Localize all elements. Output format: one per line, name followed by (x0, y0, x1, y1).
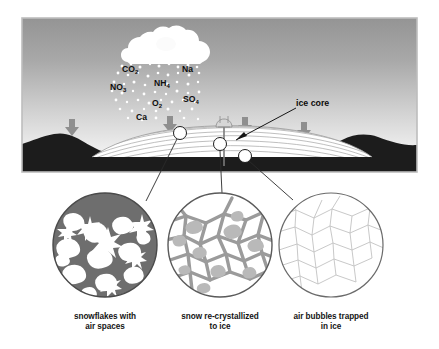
caption-snowflakes-line1: snowflakes with (74, 312, 136, 321)
caption-snowflakes: snowflakes with air spaces (43, 312, 167, 333)
diagram-canvas (0, 0, 439, 349)
caption-air-bubbles: air bubbles trapped in ice (266, 312, 396, 333)
marker-shallow (174, 127, 187, 140)
chem-label-nh4: NH4 (154, 79, 170, 88)
chem-label-co2: CO2 (122, 65, 138, 74)
detail-circle-snowflakes (53, 193, 157, 300)
caption-recrystallized-line1: snow re-crystallized (181, 312, 258, 321)
chem-label-no3: NO3 (110, 83, 126, 92)
chem-label-so4: SO4 (183, 95, 199, 104)
detail-circle-recrystallized (166, 193, 278, 297)
caption-recrystallized-line2: to ice (156, 322, 284, 332)
ice-core-label: ice core (296, 99, 329, 108)
detail-circle-air-bubbles (278, 193, 386, 300)
caption-recrystallized: snow re-crystallized to ice (156, 312, 284, 333)
caption-air-bubbles-line2: in ice (266, 322, 396, 332)
caption-air-bubbles-line1: air bubbles trapped (293, 312, 368, 321)
marker-mid (214, 138, 227, 151)
chem-label-o2: O2 (152, 99, 162, 108)
scene-panel (22, 18, 417, 173)
ice-core-diagram: CO2 Na NO3 NH4 SO4 O2 Ca ice core snowfl… (0, 0, 439, 349)
chem-label-na: Na (182, 65, 193, 74)
marker-deep (239, 150, 252, 163)
caption-snowflakes-line2: air spaces (43, 322, 167, 332)
chem-label-ca: Ca (136, 113, 147, 122)
